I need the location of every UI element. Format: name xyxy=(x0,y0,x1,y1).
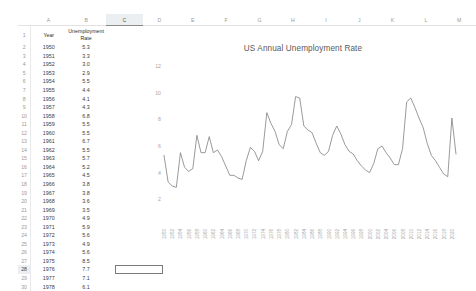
cell-a26[interactable]: 1974 xyxy=(31,248,67,257)
column-header-k[interactable]: K xyxy=(376,14,409,26)
cell-f27[interactable] xyxy=(209,257,242,266)
cell-k28[interactable] xyxy=(376,265,409,274)
cell-e28[interactable] xyxy=(176,265,209,274)
cell-b4[interactable]: 3.0 xyxy=(66,60,106,69)
cell-a10[interactable]: 1958 xyxy=(31,111,67,120)
cell-e26[interactable] xyxy=(176,248,209,257)
cell-a11[interactable]: 1959 xyxy=(31,120,67,129)
row-header-19[interactable]: 19 xyxy=(18,188,31,197)
cell-i29[interactable] xyxy=(310,274,343,283)
column-header-f[interactable]: F xyxy=(209,14,242,26)
cell-b10[interactable]: 6.8 xyxy=(66,111,106,120)
cell-b7[interactable]: 4.4 xyxy=(66,86,106,95)
row-header-6[interactable]: 6 xyxy=(18,77,31,86)
cell-l25[interactable] xyxy=(409,240,442,249)
cell-j26[interactable] xyxy=(343,248,376,257)
cell-m25[interactable] xyxy=(442,240,476,249)
cell-b5[interactable]: 2.9 xyxy=(66,69,106,78)
cell-b16[interactable]: 5.2 xyxy=(66,163,106,172)
cell-i28[interactable] xyxy=(310,265,343,274)
cell-a9[interactable]: 1957 xyxy=(31,103,67,112)
column-header-i[interactable]: I xyxy=(310,14,343,26)
cell-c25[interactable] xyxy=(106,240,143,249)
row-header-24[interactable]: 24 xyxy=(18,231,31,240)
column-header-h[interactable]: H xyxy=(276,14,309,26)
cell-a2[interactable]: 1950 xyxy=(31,43,67,52)
cell-i26[interactable] xyxy=(310,248,343,257)
row-header-9[interactable]: 9 xyxy=(18,103,31,112)
column-header-c[interactable]: C xyxy=(106,14,143,26)
cell-g29[interactable] xyxy=(243,274,276,283)
cell-f28[interactable] xyxy=(209,265,242,274)
row-header-4[interactable]: 4 xyxy=(18,60,31,69)
row-header-23[interactable]: 23 xyxy=(18,222,31,231)
cell-d25[interactable] xyxy=(143,240,176,249)
cell-a8[interactable]: 1956 xyxy=(31,94,67,103)
row-header-20[interactable]: 20 xyxy=(18,197,31,206)
cell-h29[interactable] xyxy=(276,274,309,283)
cell-j30[interactable] xyxy=(343,282,376,291)
table-row[interactable]: 2919777.1 xyxy=(18,274,476,283)
cell-m26[interactable] xyxy=(442,248,476,257)
cell-i30[interactable] xyxy=(310,282,343,291)
column-header-j[interactable]: J xyxy=(343,14,376,26)
row-header-13[interactable]: 13 xyxy=(18,137,31,146)
chart-object[interactable]: US Annual Unemployment Rate 246810121950… xyxy=(138,36,468,236)
cell-d30[interactable] xyxy=(143,282,176,291)
cell-b24[interactable]: 5.6 xyxy=(66,231,106,240)
cell-h26[interactable] xyxy=(276,248,309,257)
cell-a15[interactable]: 1963 xyxy=(31,154,67,163)
row-header-25[interactable]: 25 xyxy=(18,240,31,249)
cell-b27[interactable]: 8.5 xyxy=(66,257,106,266)
cell-j25[interactable] xyxy=(343,240,376,249)
cell-b29[interactable]: 7.1 xyxy=(66,274,106,283)
cell-a19[interactable]: 1967 xyxy=(31,188,67,197)
cell-b6[interactable]: 5.5 xyxy=(66,77,106,86)
table-row[interactable]: 3019786.1 xyxy=(18,282,476,291)
column-header-l[interactable]: L xyxy=(409,14,442,26)
row-header-27[interactable]: 27 xyxy=(18,257,31,266)
cell-f29[interactable] xyxy=(209,274,242,283)
cell-f30[interactable] xyxy=(209,282,242,291)
cell-l27[interactable] xyxy=(409,257,442,266)
cell-a12[interactable]: 1960 xyxy=(31,128,67,137)
row-header-15[interactable]: 15 xyxy=(18,154,31,163)
cell-b18[interactable]: 3.8 xyxy=(66,180,106,189)
cell-a4[interactable]: 1952 xyxy=(31,60,67,69)
cell-m27[interactable] xyxy=(442,257,476,266)
cell-a29[interactable]: 1977 xyxy=(31,274,67,283)
cell-b20[interactable]: 3.6 xyxy=(66,197,106,206)
cell-k30[interactable] xyxy=(376,282,409,291)
cell-b8[interactable]: 4.1 xyxy=(66,94,106,103)
cell-g28[interactable] xyxy=(243,265,276,274)
cell-a25[interactable]: 1973 xyxy=(31,240,67,249)
cell-i27[interactable] xyxy=(310,257,343,266)
cell-a3[interactable]: 1951 xyxy=(31,52,67,61)
cell-a27[interactable]: 1975 xyxy=(31,257,67,266)
row-header-21[interactable]: 21 xyxy=(18,205,31,214)
cell-c29[interactable] xyxy=(106,274,143,283)
cell-k25[interactable] xyxy=(376,240,409,249)
cell-a7[interactable]: 1955 xyxy=(31,86,67,95)
column-header-a[interactable]: A xyxy=(31,14,67,26)
column-header-m[interactable]: M xyxy=(442,14,476,26)
table-row[interactable]: 2819767.7 xyxy=(18,265,476,274)
cell-g30[interactable] xyxy=(243,282,276,291)
cell-b9[interactable]: 4.3 xyxy=(66,103,106,112)
cell-m28[interactable] xyxy=(442,265,476,274)
cell-l30[interactable] xyxy=(409,282,442,291)
cell-a5[interactable]: 1953 xyxy=(31,69,67,78)
cell-b1[interactable]: UnemploymentRate xyxy=(66,26,106,44)
cell-a24[interactable]: 1972 xyxy=(31,231,67,240)
cell-b26[interactable]: 5.6 xyxy=(66,248,106,257)
row-header-8[interactable]: 8 xyxy=(18,94,31,103)
row-header-17[interactable]: 17 xyxy=(18,171,31,180)
cell-b22[interactable]: 4.9 xyxy=(66,214,106,223)
cell-e27[interactable] xyxy=(176,257,209,266)
cell-g26[interactable] xyxy=(243,248,276,257)
cell-b2[interactable]: 5.3 xyxy=(66,43,106,52)
cell-m30[interactable] xyxy=(442,282,476,291)
row-header-11[interactable]: 11 xyxy=(18,120,31,129)
cell-d26[interactable] xyxy=(143,248,176,257)
cell-a13[interactable]: 1961 xyxy=(31,137,67,146)
